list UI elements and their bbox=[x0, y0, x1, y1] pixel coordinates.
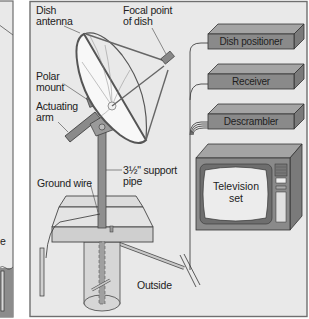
label-polar-mount: Polar mount bbox=[36, 71, 64, 93]
label-dish-positioner: Dish positioner bbox=[208, 36, 294, 47]
label-dish-antenna: Dish antenna bbox=[36, 5, 73, 27]
label-actuating-arm: Actuating arm bbox=[36, 101, 78, 123]
left-panel-partial-text: e bbox=[0, 236, 6, 247]
label-support-pipe: 3½" support pipe bbox=[123, 165, 177, 187]
label-television-set: Television set bbox=[205, 180, 267, 204]
left-partial-panel bbox=[0, 1, 13, 317]
label-ground-wire: Ground wire bbox=[37, 178, 92, 189]
label-descrambler: Descrambler bbox=[208, 116, 294, 127]
label-receiver: Receiver bbox=[208, 76, 294, 87]
label-focal-point: Focal point of dish bbox=[123, 5, 172, 27]
satellite-tv-diagram bbox=[0, 0, 309, 319]
label-outside: Outside bbox=[137, 280, 172, 291]
